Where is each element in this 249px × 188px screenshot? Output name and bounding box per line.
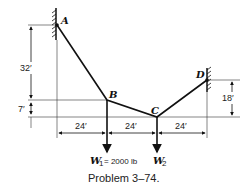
load-label-w1: W 1 = 2000 lb bbox=[90, 155, 138, 168]
dim-label-7: 7′ bbox=[18, 104, 25, 114]
dim-label-32: 32′ bbox=[20, 63, 32, 73]
caption: Problem 3–74. bbox=[88, 172, 160, 184]
wall-support-a bbox=[52, 8, 56, 40]
dim-label-h2: 24′ bbox=[125, 121, 137, 131]
dim-label-18: 18′ bbox=[222, 93, 234, 103]
cable-diagram: 32′ 7′ 18′ 24′ 24′ 24′ A B C D W 1 = 200… bbox=[0, 0, 249, 188]
point-d-dot bbox=[205, 78, 209, 82]
svg-text:= 2000 lb: = 2000 lb bbox=[104, 157, 138, 166]
load-label-w2: W 2 bbox=[153, 155, 167, 168]
point-label-c: C bbox=[151, 105, 159, 116]
point-a-dot bbox=[55, 23, 59, 27]
point-label-a: A bbox=[60, 15, 69, 26]
svg-text:2: 2 bbox=[162, 159, 167, 168]
dim-label-h1: 24′ bbox=[75, 121, 87, 131]
dim-label-h3: 24′ bbox=[175, 121, 187, 131]
point-label-d: D bbox=[195, 69, 205, 80]
cable bbox=[57, 25, 207, 117]
point-label-b: B bbox=[108, 89, 117, 100]
